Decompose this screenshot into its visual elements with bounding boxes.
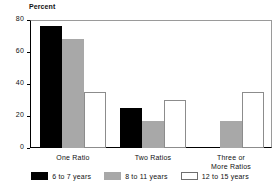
y-axis-tick-label: 0 — [20, 143, 24, 150]
bar — [40, 26, 62, 148]
bar — [142, 121, 164, 148]
legend-swatch — [181, 172, 198, 180]
bar — [242, 92, 264, 148]
bars-layer — [31, 20, 272, 148]
legend-swatch — [31, 172, 48, 180]
x-axis-category-label: Three orMore Ratios — [181, 153, 280, 171]
chart-legend: 6 to 7 years8 to 11 years12 to 15 years — [0, 172, 280, 180]
y-axis-title: Percent — [29, 3, 55, 10]
legend-label: 6 to 7 years — [52, 173, 91, 180]
bar-chart-figure: Percent 020406080 One RatioTwo RatiosThr… — [0, 0, 280, 193]
y-axis-tick-label: 20 — [16, 111, 24, 118]
y-axis-tick-label: 80 — [16, 15, 24, 22]
bar-group — [120, 20, 200, 148]
bar-group — [198, 20, 278, 148]
legend-label: 12 to 15 years — [202, 173, 249, 180]
bar — [62, 39, 84, 148]
x-axis-category-label-line: More Ratios — [181, 162, 280, 171]
y-axis-tick-mark — [27, 148, 30, 149]
y-axis-tick-mark — [27, 52, 30, 53]
legend-label: 8 to 11 years — [125, 173, 168, 180]
legend-swatch — [104, 172, 121, 180]
y-axis-tick-label: 60 — [16, 47, 24, 54]
bar — [220, 121, 242, 148]
x-axis-category-label-line: Three or — [181, 153, 280, 162]
y-axis-tick-label: 40 — [16, 79, 24, 86]
bar — [120, 108, 142, 148]
bar — [84, 92, 106, 148]
y-axis-tick-mark — [27, 20, 30, 21]
y-axis-tick-mark — [27, 116, 30, 117]
legend-item[interactable]: 12 to 15 years — [181, 172, 249, 180]
y-axis-tick-mark — [27, 84, 30, 85]
legend-item[interactable]: 8 to 11 years — [104, 172, 168, 180]
legend-item[interactable]: 6 to 7 years — [31, 172, 91, 180]
bar-group — [40, 20, 120, 148]
bar — [164, 100, 186, 148]
